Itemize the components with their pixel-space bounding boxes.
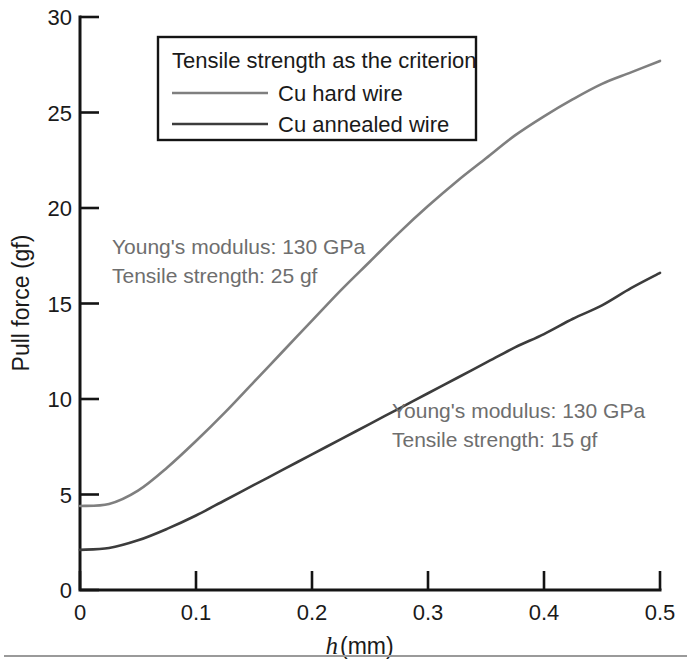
hard-wire-annotation: Young's modulus: 130 GPa Tensile strengt… <box>112 235 365 287</box>
chart-canvas: 0 5 10 15 20 25 30 0 0.1 0.2 0.3 0.4 0.5 <box>0 0 691 670</box>
y-axis-ticks <box>80 17 99 590</box>
x-axis-title: h (mm) <box>326 632 394 659</box>
legend-label-cu-hard-wire: Cu hard wire <box>278 81 403 106</box>
hard-wire-annotation-line-1: Young's modulus: 130 GPa <box>112 235 365 258</box>
y-axis-title: Pull force (gf) <box>8 235 34 372</box>
x-axis-title-symbol: h <box>326 632 339 659</box>
x-tick-label-0.2: 0.2 <box>297 600 328 625</box>
annealed-wire-annotation: Young's modulus: 130 GPa Tensile strengt… <box>392 399 645 451</box>
annealed-wire-annotation-line-1: Young's modulus: 130 GPa <box>392 399 645 422</box>
x-tick-label-0: 0 <box>74 600 86 625</box>
y-tick-label-5: 5 <box>60 483 72 508</box>
y-tick-label-0: 0 <box>60 578 72 603</box>
legend-title: Tensile strength as the criterion <box>172 48 477 73</box>
y-tick-label-10: 10 <box>48 387 72 412</box>
legend-label-cu-annealed-wire: Cu annealed wire <box>278 112 449 137</box>
x-axis-ticks <box>80 571 660 590</box>
x-tick-label-0.1: 0.1 <box>181 600 212 625</box>
y-tick-label-30: 30 <box>48 5 72 30</box>
x-axis-tick-labels: 0 0.1 0.2 0.3 0.4 0.5 <box>74 600 675 625</box>
x-tick-label-0.5: 0.5 <box>645 600 676 625</box>
hard-wire-annotation-line-2: Tensile strength: 25 gf <box>112 264 318 287</box>
y-tick-label-15: 15 <box>48 292 72 317</box>
legend: Tensile strength as the criterion Cu har… <box>158 37 477 140</box>
y-tick-label-25: 25 <box>48 101 72 126</box>
annealed-wire-annotation-line-2: Tensile strength: 15 gf <box>392 428 598 451</box>
x-tick-label-0.4: 0.4 <box>529 600 560 625</box>
y-tick-label-20: 20 <box>48 196 72 221</box>
y-axis-tick-labels: 0 5 10 15 20 25 30 <box>48 5 72 603</box>
x-tick-label-0.3: 0.3 <box>413 600 444 625</box>
figure-container: 0 5 10 15 20 25 30 0 0.1 0.2 0.3 0.4 0.5 <box>0 0 691 670</box>
